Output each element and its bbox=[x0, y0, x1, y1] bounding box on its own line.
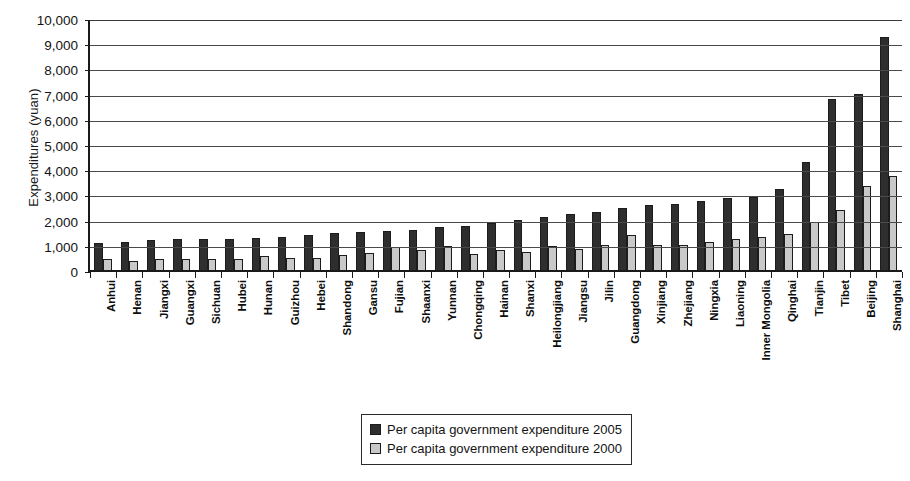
x-axis-category-label: Hebei bbox=[315, 280, 327, 311]
x-axis-tickmark bbox=[483, 272, 484, 278]
bar-chart: Expenditures (yuan) 10,0009,0008,0007,00… bbox=[0, 0, 910, 481]
bar-2000 bbox=[496, 250, 505, 272]
x-axis-category-labels: AnhuiHenanJiangxiGuangxiSichuanHubeiHuna… bbox=[88, 280, 900, 405]
bar-2000 bbox=[575, 249, 584, 272]
legend-item-2005: Per capita government expenditure 2005 bbox=[370, 420, 622, 439]
y-axis-tickmark bbox=[85, 247, 90, 248]
x-axis-tickmark bbox=[692, 272, 693, 278]
x-axis-tickmark bbox=[404, 272, 405, 278]
bar-2005 bbox=[775, 189, 784, 272]
y-axis-tick-label: 10,000 bbox=[37, 13, 78, 28]
x-axis-tickmark bbox=[797, 272, 798, 278]
x-axis-category-label: Xinjiang bbox=[655, 280, 667, 324]
x-axis-line bbox=[90, 270, 902, 272]
x-axis-category-label: Shaanxi bbox=[420, 280, 432, 323]
gridline bbox=[90, 45, 902, 46]
bar-2005 bbox=[252, 238, 261, 272]
bar-2005 bbox=[173, 239, 182, 272]
x-axis-category-label: Gansu bbox=[367, 280, 379, 315]
x-axis-tickmark bbox=[273, 272, 274, 278]
x-axis-tickmark bbox=[378, 272, 379, 278]
gridline bbox=[90, 20, 902, 21]
bar-2000 bbox=[417, 250, 426, 272]
x-axis-category-label: Guangdong bbox=[629, 280, 641, 344]
bar-2000 bbox=[758, 237, 767, 272]
x-axis-category-label: Guangxi bbox=[184, 280, 196, 325]
y-axis-tick-label: 5,000 bbox=[44, 139, 78, 154]
x-axis-tickmark bbox=[902, 272, 903, 278]
x-axis-category-label: Sichuan bbox=[210, 280, 222, 324]
bar-2000 bbox=[679, 245, 688, 272]
gridline bbox=[90, 121, 902, 122]
x-axis-category-label: Hunan bbox=[262, 280, 274, 315]
legend-swatch-icon-2000 bbox=[370, 443, 381, 454]
x-axis-category-label: Tianjin bbox=[813, 280, 825, 316]
x-axis-category-label: Heilongjiang bbox=[551, 280, 563, 348]
y-axis-tickmark bbox=[85, 222, 90, 223]
x-axis-tickmark bbox=[326, 272, 327, 278]
y-axis-tickmark bbox=[85, 146, 90, 147]
bar-2005 bbox=[645, 205, 654, 272]
x-axis-category-label: Jiangsu bbox=[577, 280, 589, 323]
bar-2005 bbox=[409, 230, 418, 272]
x-axis-category-label: Yunnan bbox=[446, 280, 458, 321]
y-axis-tick-label: 3,000 bbox=[44, 189, 78, 204]
x-axis-tickmark bbox=[352, 272, 353, 278]
y-axis-tick-label: 7,000 bbox=[44, 88, 78, 103]
bar-2005 bbox=[356, 232, 365, 272]
gridline bbox=[90, 196, 902, 197]
y-axis-tick-label: 0 bbox=[70, 265, 78, 280]
gridline bbox=[90, 171, 902, 172]
x-axis-tickmark bbox=[509, 272, 510, 278]
x-axis-tickmark bbox=[431, 272, 432, 278]
x-axis-tickmark bbox=[640, 272, 641, 278]
y-axis-tick-labels: 10,0009,0008,0007,0006,0005,0004,0003,00… bbox=[0, 0, 84, 481]
x-axis-category-label: Jilin bbox=[603, 280, 615, 303]
y-axis-tick-label: 2,000 bbox=[44, 214, 78, 229]
bar-2005 bbox=[278, 237, 287, 272]
y-axis-tickmark bbox=[85, 45, 90, 46]
gridline bbox=[90, 146, 902, 147]
bar-2005 bbox=[618, 208, 627, 273]
x-axis-tickmark bbox=[142, 272, 143, 278]
x-axis-category-label: Shanghai bbox=[891, 280, 903, 331]
bar-2005 bbox=[540, 217, 549, 272]
x-axis-tickmark bbox=[169, 272, 170, 278]
x-axis-tickmark bbox=[90, 272, 91, 278]
x-axis-category-label: Zhejiang bbox=[682, 280, 694, 326]
bar-2005 bbox=[435, 227, 444, 272]
legend-item-2000: Per capita government expenditure 2000 bbox=[370, 439, 622, 458]
legend-label-2000: Per capita government expenditure 2000 bbox=[387, 441, 622, 456]
x-axis-category-label: Henan bbox=[131, 280, 143, 315]
bar-2005 bbox=[304, 235, 313, 272]
x-axis-tickmark bbox=[457, 272, 458, 278]
legend-swatch-icon-2005 bbox=[370, 424, 381, 435]
y-axis-tickmark bbox=[85, 171, 90, 172]
bar-2005 bbox=[383, 231, 392, 272]
x-axis-tickmark bbox=[247, 272, 248, 278]
bar-2000 bbox=[732, 239, 741, 272]
x-axis-category-label: Fujian bbox=[393, 280, 405, 313]
bar-2000 bbox=[889, 176, 898, 272]
bar-2000 bbox=[653, 245, 662, 272]
bar-2005 bbox=[880, 37, 889, 272]
x-axis-category-label: Shanxi bbox=[524, 280, 536, 317]
x-axis-category-label: Hubei bbox=[236, 280, 248, 311]
y-axis-tick-label: 8,000 bbox=[44, 63, 78, 78]
x-axis-category-label: Shandong bbox=[341, 280, 353, 335]
y-axis-tick-label: 1,000 bbox=[44, 239, 78, 254]
legend-label-2005: Per capita government expenditure 2005 bbox=[387, 422, 622, 437]
x-axis-tickmark bbox=[535, 272, 536, 278]
bar-2005 bbox=[461, 226, 470, 272]
y-axis-tickmark bbox=[85, 20, 90, 21]
x-axis-tickmark bbox=[823, 272, 824, 278]
x-axis-category-label: Guizhou bbox=[289, 280, 301, 325]
x-axis-tickmark bbox=[588, 272, 589, 278]
x-axis-tickmark bbox=[771, 272, 772, 278]
x-axis-category-label: Qinghai bbox=[786, 280, 798, 322]
x-axis-category-label: Ningxia bbox=[708, 280, 720, 321]
y-axis-tickmark bbox=[85, 96, 90, 97]
bar-2005 bbox=[749, 197, 758, 272]
x-axis-category-label: Jiangxi bbox=[158, 280, 170, 319]
x-axis-category-label: Tibet bbox=[839, 280, 851, 307]
